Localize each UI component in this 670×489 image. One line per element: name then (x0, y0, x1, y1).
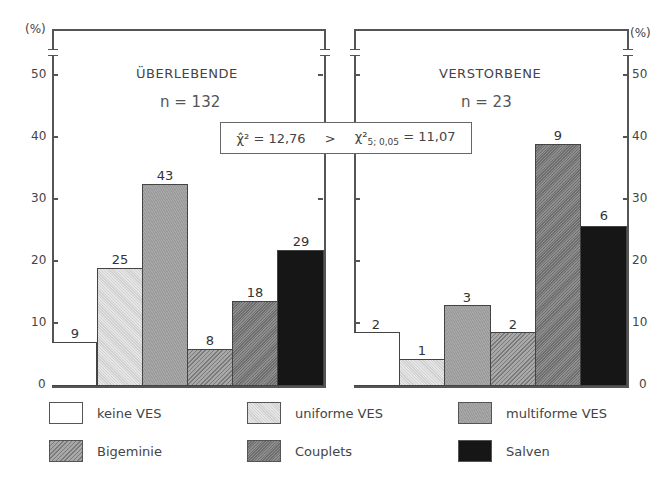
bar-bigeminie (187, 349, 233, 386)
legend-label: Salven (506, 444, 550, 459)
legend-label: keine VES (97, 406, 161, 421)
left-baseline (52, 386, 326, 388)
right-bar-label: 1 (402, 343, 442, 358)
legend-item-multiforme-ves: multiforme VES (458, 402, 607, 424)
bar-salven (277, 250, 324, 386)
bar-keine-ves (354, 332, 400, 386)
legend-label: Couplets (295, 444, 352, 459)
legend-swatch-hatched (49, 440, 83, 462)
comparison-sign: > (325, 131, 336, 146)
left-bar-label: 29 (281, 234, 321, 249)
right-ytick-20: 20 (632, 253, 647, 267)
legend-item-uniforme-ves: uniforme VES (247, 402, 383, 424)
right-bar-label: 2 (493, 317, 533, 332)
left-ytick-10: 10 (31, 315, 46, 329)
left-bar-label: 43 (145, 168, 185, 183)
bar-bigeminie (490, 332, 536, 386)
bar-keine-ves (52, 342, 97, 386)
right-ytick-10: 10 (632, 315, 647, 329)
chi-critical-symbol: χ² (355, 129, 368, 144)
legend-swatch-medium-gray (458, 402, 492, 424)
left-bar-label: 18 (235, 285, 275, 300)
left-ytick-50: 50 (31, 67, 46, 81)
right-ytick-40: 40 (632, 129, 647, 143)
legend-item-salven: Salven (458, 440, 550, 462)
left-bar-label: 9 (55, 326, 95, 341)
bar-uniforme-ves (399, 359, 445, 386)
bar-multiforme-ves (444, 305, 491, 386)
left-ytick-30: 30 (31, 191, 46, 205)
bar-couplets (535, 144, 581, 386)
right-unit-label: (%) (630, 26, 651, 40)
chi-square-annotation: χ̂² = 12,76 > χ²5; 0,05 = 11,07 (220, 122, 472, 154)
legend-swatch-dark-hatched (247, 440, 281, 462)
bar-multiforme-ves (142, 184, 188, 386)
left-ytick-0: 0 (38, 377, 46, 391)
right-ytick-50: 50 (632, 67, 647, 81)
legend-item-couplets: Couplets (247, 440, 352, 462)
legend-swatch-light-dotted (247, 402, 281, 424)
left-ytick-20: 20 (31, 253, 46, 267)
chi-critical-value: = 11,07 (403, 129, 455, 144)
legend-swatch-white (49, 402, 83, 424)
legend-label: Bigeminie (97, 444, 162, 459)
left-bar-label: 8 (190, 333, 230, 348)
legend-item-bigeminie: Bigeminie (49, 440, 162, 462)
right-bar-label: 6 (584, 208, 624, 223)
chi-hat-value: χ̂² = 12,76 (237, 131, 306, 146)
right-bar-label: 9 (538, 128, 578, 143)
legend-label: multiforme VES (506, 406, 607, 421)
right-bar-label: 2 (356, 317, 396, 332)
bar-salven (580, 226, 627, 386)
legend-label: uniforme VES (295, 406, 383, 421)
left-unit-label: (%) (25, 22, 46, 36)
right-ytick-0: 0 (639, 377, 647, 391)
right-baseline (354, 386, 629, 388)
bar-couplets (232, 301, 278, 386)
left-bar-label: 25 (100, 252, 140, 267)
legend-item-keine-ves: keine VES (49, 402, 161, 424)
right-bar-label: 3 (447, 290, 487, 305)
left-ytick-40: 40 (31, 129, 46, 143)
chi-critical: χ²5; 0,05 = 11,07 (355, 129, 456, 147)
chi-critical-subscript: 5; 0,05 (367, 137, 399, 147)
right-ytick-30: 30 (632, 191, 647, 205)
bar-uniforme-ves (97, 268, 143, 386)
legend-swatch-black (458, 440, 492, 462)
